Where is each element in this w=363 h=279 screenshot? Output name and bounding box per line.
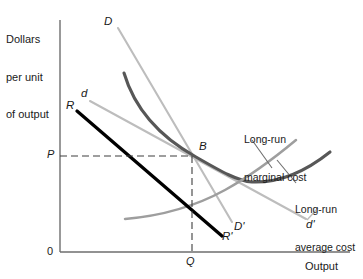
- annotation-long-run-average-cost: Long-run average cost: [295, 178, 355, 278]
- y-axis-title-line3: of output: [6, 108, 49, 121]
- lrmc-label-line1: Long-run: [244, 133, 306, 146]
- label-demand-end: D': [234, 220, 245, 233]
- label-point-b: B: [199, 140, 207, 153]
- economics-chart-figure: Dollars per unit of output Output D D' d…: [0, 0, 363, 279]
- label-revenue-end: R': [222, 230, 233, 243]
- lrac-label-line2: average cost: [295, 241, 355, 254]
- label-firm-demand-start: d: [81, 87, 87, 100]
- marginal-revenue-curve: [77, 111, 222, 236]
- x-tick-label-quantity: Q: [186, 255, 195, 268]
- y-tick-label-price: P: [47, 148, 54, 161]
- label-revenue-start: R: [66, 99, 74, 112]
- y-axis-title-line1: Dollars: [6, 33, 49, 46]
- y-axis-title: Dollars per unit of output: [6, 8, 49, 146]
- y-axis-title-line2: per unit: [6, 71, 49, 84]
- y-tick-label-origin: 0: [47, 245, 53, 258]
- label-demand-start: D: [104, 15, 112, 28]
- lrac-label-line1: Long-run: [295, 203, 355, 216]
